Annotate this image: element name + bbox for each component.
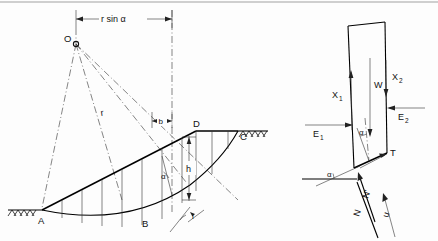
slope-face-A-D [42,131,196,210]
radius-line-mid [76,44,186,182]
slice-top-edge [348,22,385,26]
force-label-X1: X [332,90,338,100]
force-u-pore-water: u [380,193,395,237]
force-label-X2: X [392,72,398,82]
force-label-X2-subscript: 2 [399,77,403,84]
angle-label-alpha-right-bottom: α [327,170,332,179]
left-diagram: r sin α O r [8,10,268,232]
point-label-O: O [64,33,71,44]
angle-alpha-left: α [161,156,172,195]
force-X2: X 2 [384,60,403,97]
ground-line-left [8,210,42,216]
angle-i-left: i [170,207,204,232]
force-label-E2-subscript: 2 [405,117,409,124]
force-label-E2: E [398,112,404,122]
dimension-label-b: b [159,117,164,126]
force-label-u: u [380,211,391,219]
right-diagram: W X 1 X 2 E 1 E 2 [302,22,425,238]
ground-hatching-left [8,210,36,216]
angle-label-alpha-left: α [161,172,166,181]
slope-profile [42,131,238,210]
angle-alpha-right-top: α [357,118,369,161]
point-label-A: A [38,215,45,226]
force-label-W: W [374,80,383,90]
radius-line-r [76,44,122,200]
slip-surface-arc [42,131,238,215]
point-label-B: B [142,218,148,229]
technical-figure: r sin α O r [0,0,438,241]
dimension-label-r-sin-alpha: r sin α [101,14,126,24]
dimension-h: h [182,136,196,201]
angle-label-alpha-right-top: α [359,128,364,137]
force-W: W [368,58,383,137]
force-label-T: T [390,147,396,158]
slice-division-lines [62,131,228,227]
radius-construction-lines [42,44,238,208]
force-label-N-total: N [351,208,363,217]
force-E1: E 1 [305,123,353,141]
force-label-N-effective: N' [360,188,372,199]
dimension-r-sin-alpha: r sin α [76,10,172,28]
radius-line-to-A [42,44,76,208]
point-label-C: C [240,131,247,142]
angle-alpha-right-bottom: α [302,166,360,186]
slice-left-edge [348,26,354,168]
radius-label-r: r [100,108,104,118]
angle-label-i: i [192,212,194,221]
dimension-label-h: h [186,164,191,174]
force-label-E1-subscript: 1 [320,134,324,141]
point-label-D: D [193,118,200,129]
force-label-X1-subscript: 1 [339,95,343,102]
force-E2: E 2 [387,106,425,124]
force-label-E1: E [313,129,319,139]
dimension-b: b [152,112,172,128]
